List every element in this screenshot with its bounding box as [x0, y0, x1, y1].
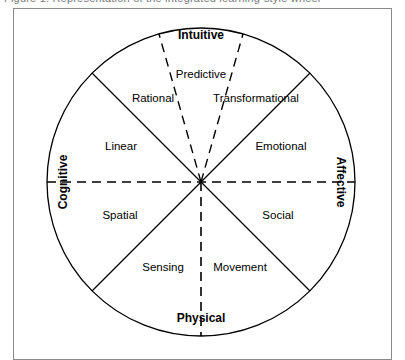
sector-label-predictive: Predictive — [176, 69, 227, 81]
divider-intuitive-right-boundary — [201, 34, 243, 182]
axis-label-intuitive: Intuitive — [178, 29, 224, 41]
sector-label-linear: Linear — [105, 141, 137, 153]
axis-label-cognitive: Cognitive — [57, 155, 69, 210]
sector-label-movement: Movement — [213, 262, 267, 274]
divider-intuitive-left-boundary — [159, 34, 201, 182]
sector-label-social: Social — [262, 210, 293, 222]
axis-label-physical: Physical — [177, 312, 226, 324]
sector-label-spatial: Spatial — [102, 210, 137, 222]
sector-label-rational: Rational — [132, 93, 174, 105]
axis-label-affective: Affective — [335, 157, 347, 208]
sector-label-transformational: Transformational — [213, 93, 299, 105]
sector-label-emotional: Emotional — [255, 141, 306, 153]
sector-label-sensing: Sensing — [142, 262, 184, 274]
